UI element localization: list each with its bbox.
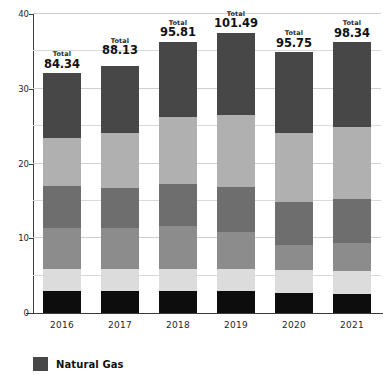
y-axis-tick-mark (29, 89, 33, 90)
total-value: 88.13 (91, 45, 149, 57)
x-axis-tick-label-2016: 2016 (33, 320, 91, 330)
total-label-2018: Total95.81 (149, 20, 207, 39)
bar-segment-segment-1[interactable] (275, 270, 313, 292)
bar-segment-segment-1[interactable] (333, 271, 371, 293)
y-axis-tick-label: 30 (0, 84, 29, 94)
stacked-bar-chart: 403020100 201620172018201920202021 Total… (0, 0, 384, 376)
x-axis-tick-label-2019: 2019 (207, 320, 265, 330)
total-label-2017: Total88.13 (91, 38, 149, 57)
bar-segment-natural-gas[interactable] (333, 42, 371, 126)
bar-segment-base[interactable] (43, 291, 81, 313)
bar-segment-segment-4[interactable] (101, 133, 139, 188)
bar-2019[interactable] (217, 33, 255, 313)
bar-segment-segment-2[interactable] (275, 245, 313, 270)
bar-segment-segment-2[interactable] (101, 228, 139, 269)
x-axis-tick-label-2020: 2020 (265, 320, 323, 330)
gridline-minor (33, 125, 381, 126)
bar-segment-segment-2[interactable] (159, 226, 197, 269)
y-axis-tick-mark (29, 238, 33, 239)
total-label-2016: Total84.34 (33, 51, 91, 70)
legend-swatch-natural-gas (33, 357, 48, 371)
bar-segment-segment-4[interactable] (43, 138, 81, 186)
gridline-minor (33, 200, 381, 201)
bar-2020[interactable] (275, 52, 313, 313)
bar-segment-segment-4[interactable] (275, 133, 313, 203)
bar-segment-segment-2[interactable] (333, 243, 371, 271)
y-axis-tick-mark (29, 313, 33, 314)
bar-segment-natural-gas[interactable] (217, 33, 255, 115)
bar-segment-segment-3[interactable] (43, 186, 81, 228)
gridline-minor (33, 275, 381, 276)
total-label-2020: Total95.75 (265, 30, 323, 49)
x-axis-tick-label-2018: 2018 (149, 320, 207, 330)
bar-2017[interactable] (101, 60, 139, 313)
x-axis-tick-label-2021: 2021 (323, 320, 381, 330)
total-value: 95.75 (265, 38, 323, 50)
bar-segment-natural-gas[interactable] (43, 73, 81, 138)
x-axis-tick-label-2017: 2017 (91, 320, 149, 330)
bar-segment-natural-gas[interactable] (101, 66, 139, 133)
gridline-major (33, 237, 381, 238)
bar-2018[interactable] (159, 42, 197, 313)
bar-segment-segment-3[interactable] (159, 184, 197, 227)
bar-2016[interactable] (43, 73, 81, 313)
bar-segment-segment-2[interactable] (217, 232, 255, 269)
total-value: 84.34 (33, 59, 91, 71)
total-label-2021: Total98.34 (323, 20, 381, 39)
bar-segment-segment-3[interactable] (217, 187, 255, 231)
bar-segment-base[interactable] (333, 294, 371, 313)
x-axis-line (26, 313, 383, 314)
gridline-major (33, 163, 381, 164)
bar-segment-base[interactable] (275, 293, 313, 313)
bar-segment-segment-3[interactable] (101, 188, 139, 228)
bar-segment-segment-1[interactable] (43, 269, 81, 291)
bar-2021[interactable] (333, 42, 371, 313)
bar-segment-segment-3[interactable] (333, 199, 371, 243)
y-axis-tick-label: 20 (0, 159, 29, 169)
total-value: 95.81 (149, 27, 207, 39)
bar-segment-base[interactable] (217, 291, 255, 313)
bar-segment-segment-1[interactable] (217, 269, 255, 291)
gridline-major (33, 88, 381, 89)
bar-segment-base[interactable] (101, 291, 139, 313)
bar-segment-segment-3[interactable] (275, 202, 313, 245)
bar-segment-segment-1[interactable] (159, 269, 197, 291)
chart-legend: Natural Gas (33, 357, 124, 371)
bar-segment-natural-gas[interactable] (275, 52, 313, 133)
bar-segment-segment-4[interactable] (217, 115, 255, 188)
y-axis-tick-label: 0 (0, 308, 29, 318)
total-label-2019: Total101.49 (207, 11, 265, 30)
bar-segment-base[interactable] (159, 291, 197, 313)
y-axis-tick-label: 40 (0, 9, 29, 19)
bar-segment-natural-gas[interactable] (159, 42, 197, 117)
y-axis-tick-mark (29, 14, 33, 15)
y-axis-tick-mark (29, 164, 33, 165)
bar-segment-segment-1[interactable] (101, 269, 139, 291)
legend-label-natural-gas: Natural Gas (56, 359, 124, 370)
total-value: 98.34 (323, 28, 381, 40)
y-axis-tick-label: 10 (0, 233, 29, 243)
bar-segment-segment-2[interactable] (43, 228, 81, 269)
total-value: 101.49 (207, 18, 265, 30)
bar-segment-segment-4[interactable] (159, 117, 197, 184)
bar-segment-segment-4[interactable] (333, 127, 371, 199)
